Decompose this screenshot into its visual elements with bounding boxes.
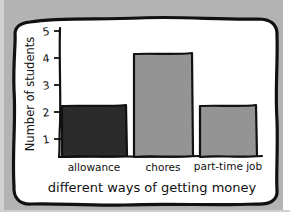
chart-screenshot: 5 4 3 2 1 Number of students allowance c… [0,0,290,224]
x-tick-label-chores: chores [146,161,181,173]
bar-part-time-job [200,105,257,157]
y-axis-label: Number of students [23,37,37,152]
x-tick-label-part-time-job: part-time job [194,160,263,172]
bar-chart: 5 4 3 2 1 Number of students allowance c… [0,0,290,224]
y-axis [59,28,60,157]
bar-chores [134,53,193,157]
bar-allowance [62,105,127,157]
x-tick-label-allowance: allowance [68,161,121,173]
x-axis-label: different ways of getting money [48,180,257,195]
